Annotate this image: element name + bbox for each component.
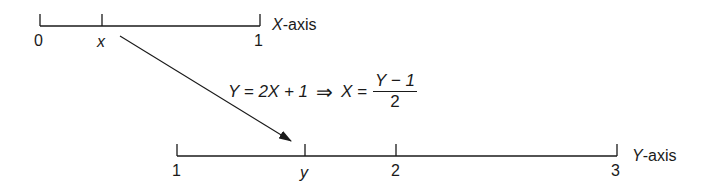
fraction: Y − 1 2 — [373, 72, 417, 112]
x-tick-x: x — [97, 34, 105, 50]
y-tick-2: 2 — [391, 163, 400, 179]
implies-symbol: ⇒ — [316, 80, 333, 104]
y-tick-3: 3 — [611, 163, 620, 179]
x-tick-1: 1 — [254, 33, 263, 49]
y-tick-1: 1 — [172, 163, 181, 179]
fraction-numerator: Y − 1 — [373, 72, 417, 92]
transform-equation: Y = 2X + 1 ⇒ X = Y − 1 2 — [228, 72, 417, 112]
x-axis-label: X-axis — [272, 17, 316, 33]
y-axis-label: Y-axis — [632, 148, 676, 164]
equation-rhs-prefix: X = — [341, 82, 367, 102]
y-axis-line — [177, 144, 617, 156]
x-axis-line — [40, 14, 260, 26]
fraction-denominator: 2 — [390, 92, 399, 112]
x-tick-0: 0 — [34, 33, 43, 49]
y-tick-y: y — [300, 165, 308, 181]
equation-lhs: Y = 2X + 1 — [228, 82, 308, 102]
